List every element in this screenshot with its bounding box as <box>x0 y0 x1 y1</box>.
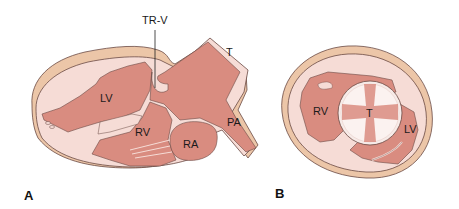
label-trv: TR-V <box>142 14 168 26</box>
label-pa-a: PA <box>227 116 242 128</box>
panel-a: TR-V T LV RV RA PA A <box>24 14 258 203</box>
label-t-a: T <box>226 46 233 58</box>
label-lv-b: LV <box>404 123 417 135</box>
panel-label-b: B <box>275 186 284 201</box>
panel-b: RV T LV B <box>275 46 432 201</box>
label-ra-a: RA <box>183 138 199 150</box>
label-rv-a: RV <box>135 126 151 138</box>
panel-label-a: A <box>24 188 34 203</box>
label-rv-b: RV <box>313 105 329 117</box>
label-t-b: T <box>366 107 373 119</box>
label-lv-a: LV <box>100 92 113 104</box>
heart-diagram: TR-V T LV RV RA PA A RV T LV B <box>0 0 459 209</box>
